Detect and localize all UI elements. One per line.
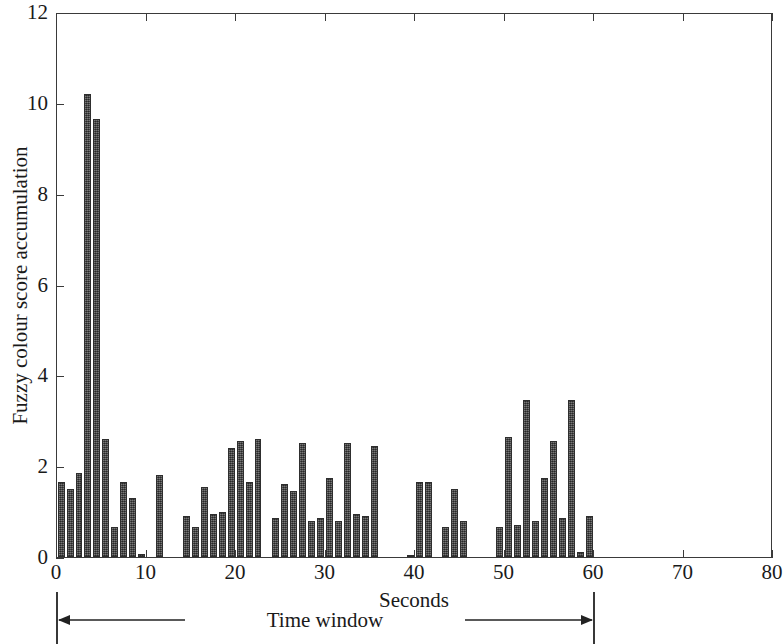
y-tick-mark — [56, 376, 64, 377]
y-tick-mark — [56, 104, 64, 105]
x-tick-mark-top — [504, 13, 505, 21]
bar — [505, 437, 512, 557]
bar — [577, 552, 584, 557]
x-tick-mark-top — [56, 13, 57, 21]
bar — [156, 475, 163, 557]
bar — [335, 521, 342, 557]
bar — [138, 554, 145, 557]
plot-area — [56, 13, 772, 558]
bar — [451, 489, 458, 557]
x-tick-mark — [683, 550, 684, 558]
x-tick-mark-top — [772, 13, 773, 21]
x-tick-mark — [772, 550, 773, 558]
figure: Fuzzy colour score accumulation 02468101… — [0, 0, 784, 644]
bar — [299, 443, 306, 557]
x-tick-label: 60 — [568, 562, 618, 583]
bar — [84, 94, 91, 557]
bar — [237, 441, 244, 557]
bar — [326, 478, 333, 557]
y-tick-mark — [56, 195, 64, 196]
y-tick-mark — [56, 286, 64, 287]
bar — [407, 555, 414, 557]
bar — [425, 482, 432, 557]
bar — [550, 441, 557, 557]
bar — [102, 439, 109, 557]
x-tick-label: 50 — [479, 562, 529, 583]
y-tick-mark — [56, 467, 64, 468]
bar — [586, 516, 593, 557]
x-tick-label: 10 — [121, 562, 171, 583]
bar — [255, 439, 262, 557]
bar — [246, 482, 253, 557]
bar — [281, 484, 288, 557]
x-tick-mark-top — [235, 13, 236, 21]
bar — [120, 482, 127, 557]
bar — [228, 448, 235, 557]
bar — [353, 514, 360, 557]
bar — [532, 521, 539, 557]
x-tick-mark-top — [146, 13, 147, 21]
x-tick-mark — [56, 550, 57, 558]
bar — [442, 527, 449, 557]
y-tick-label: 4 — [0, 365, 48, 386]
bar — [219, 512, 226, 557]
x-tick-label: 20 — [210, 562, 260, 583]
bar — [362, 516, 369, 557]
bar — [460, 521, 467, 557]
bar — [290, 491, 297, 557]
x-tick-mark-top — [325, 13, 326, 21]
x-tick-mark — [325, 550, 326, 558]
x-tick-label: 80 — [747, 562, 784, 583]
bar — [67, 489, 74, 557]
bar — [201, 487, 208, 557]
x-tick-mark — [504, 550, 505, 558]
y-tick-label: 10 — [0, 93, 48, 114]
bar — [514, 525, 521, 557]
bar — [568, 400, 575, 557]
x-tick-mark — [414, 550, 415, 558]
x-tick-mark — [235, 550, 236, 558]
bar — [416, 482, 423, 557]
x-tick-mark-top — [683, 13, 684, 21]
x-tick-mark — [146, 550, 147, 558]
x-tick-mark-top — [414, 13, 415, 21]
x-tick-label: 30 — [300, 562, 350, 583]
bar — [183, 516, 190, 557]
x-tick-label: 40 — [389, 562, 439, 583]
bar — [272, 518, 279, 557]
time-window-label: Time window — [185, 608, 465, 632]
bar — [93, 119, 100, 557]
y-tick-mark — [56, 558, 64, 559]
bar — [129, 498, 136, 557]
y-tick-label: 6 — [0, 275, 48, 296]
bar — [371, 446, 378, 557]
bar — [523, 400, 530, 557]
y-tick-label: 8 — [0, 184, 48, 205]
bars-layer — [57, 14, 771, 557]
bar — [496, 527, 503, 557]
x-tick-label: 0 — [31, 562, 81, 583]
bar — [210, 514, 217, 557]
bar — [541, 478, 548, 557]
x-tick-mark-top — [593, 13, 594, 21]
bar — [192, 527, 199, 557]
bar — [58, 482, 65, 557]
bar — [344, 443, 351, 557]
x-tick-mark — [593, 550, 594, 558]
y-tick-label: 2 — [0, 456, 48, 477]
bar — [308, 521, 315, 557]
y-tick-mark — [56, 13, 64, 14]
bar — [111, 527, 118, 557]
bar — [317, 518, 324, 557]
bar — [76, 473, 83, 557]
y-tick-label: 12 — [0, 2, 48, 23]
bar — [559, 518, 566, 557]
x-tick-label: 70 — [658, 562, 708, 583]
